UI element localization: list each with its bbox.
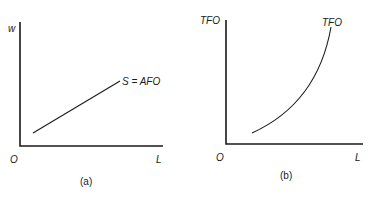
panel-a-supply-line	[33, 81, 120, 133]
panel-b-tfo-curve	[252, 27, 331, 133]
panel-b-x-axis-label: L	[355, 152, 361, 163]
panel-b: TFO TFO O L (b)	[200, 15, 363, 181]
panel-a-x-axis-label: L	[156, 154, 162, 165]
panel-a-y-axis-label: w	[8, 23, 16, 34]
panel-b-y-axis-label: TFO	[200, 15, 220, 26]
panel-b-axes	[226, 20, 363, 144]
panel-a-curve-label: S = AFO	[122, 76, 160, 87]
panel-b-caption: (b)	[280, 170, 292, 181]
diagram-canvas: w S = AFO O L (a) TFO TFO O L (b)	[0, 0, 378, 199]
panel-b-curve-label: TFO	[322, 17, 342, 28]
panel-a-origin-label: O	[10, 154, 18, 165]
panel-a: w S = AFO O L (a)	[8, 22, 163, 187]
panel-b-origin-label: O	[216, 152, 224, 163]
panel-a-caption: (a)	[80, 176, 92, 187]
